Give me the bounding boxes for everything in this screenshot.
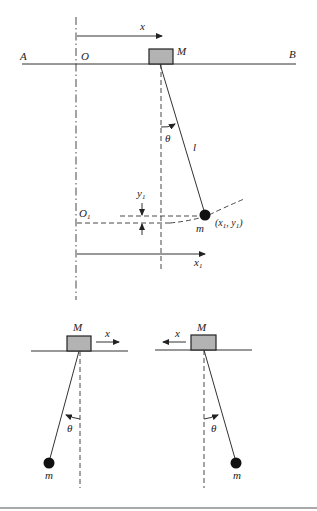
theta-label-left: θ — [67, 422, 73, 434]
pendulum-bob-left — [44, 458, 55, 469]
top-figure: x A O B M θ l O1 y1 m (x1, y1) x1 — [19, 17, 296, 300]
point-b-label: B — [289, 48, 296, 60]
theta-label-right: θ — [211, 422, 217, 434]
x-label-right: x — [174, 327, 180, 339]
point-a-label: A — [19, 50, 27, 62]
bob-mass-label: m — [196, 222, 204, 234]
x-label-left: x — [104, 327, 110, 339]
x1-label: x1 — [193, 256, 202, 270]
pendulum-rod-left — [49, 351, 79, 462]
theta-arc-left — [66, 415, 80, 419]
cart-mass-label-left: M — [72, 321, 83, 333]
cart-block-left — [67, 336, 91, 351]
theta-arc-arrow — [161, 124, 175, 127]
bob-mass-label-right: m — [233, 469, 241, 481]
cart-block-right — [191, 335, 216, 350]
pendulum-cart-diagram: x A O B M θ l O1 y1 m (x1, y1) x1 M x — [0, 0, 317, 511]
pendulum-bob-right — [231, 458, 242, 469]
pendulum-rod-right — [204, 350, 236, 462]
bottom-right-figure: M x θ m — [155, 321, 252, 488]
length-l-label: l — [193, 141, 196, 153]
y1-label: y1 — [136, 187, 145, 201]
origin-o1-label: O1 — [79, 207, 90, 221]
bob-mass-label-left: m — [45, 469, 53, 481]
theta-arc-right — [204, 415, 218, 419]
bottom-left-figure: M x θ m — [31, 321, 128, 488]
x-label: x — [139, 20, 145, 32]
origin-o-label: O — [81, 50, 89, 62]
cart-mass-label: M — [176, 45, 187, 57]
bob-coordinates-label: (x1, y1) — [215, 217, 243, 230]
cart-mass-label-right: M — [196, 321, 207, 333]
theta-label: θ — [165, 132, 171, 144]
pendulum-bob — [200, 210, 211, 221]
cart-block-m — [149, 49, 173, 64]
